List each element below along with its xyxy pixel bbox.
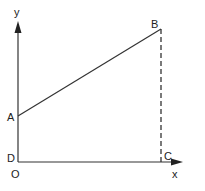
origin-label: O — [11, 168, 20, 180]
point-a-label: A — [7, 111, 15, 123]
point-d-label: D — [7, 152, 15, 164]
y-axis-label: y — [14, 6, 20, 18]
y-axis-arrow-icon — [15, 21, 22, 33]
x-axis-arrow-icon — [171, 159, 183, 166]
x-axis-label: x — [172, 168, 178, 180]
point-b-label: B — [151, 18, 158, 30]
segment-ab — [18, 29, 161, 116]
point-c-label: C — [164, 150, 172, 162]
graph-canvas: y x A B C D O — [0, 0, 205, 191]
